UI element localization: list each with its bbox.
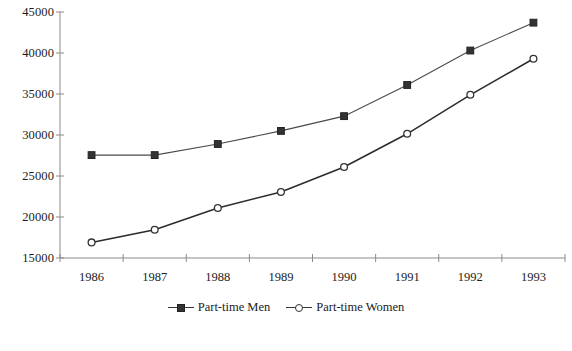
data-point-marker: [467, 91, 474, 98]
legend-item: Part-time Women: [286, 300, 404, 315]
data-point-marker: [467, 47, 474, 54]
y-axis-tick-label: 25000: [6, 170, 54, 183]
y-axis-tick-label: 30000: [6, 129, 54, 142]
x-axis-tick-label: 1987: [125, 271, 185, 284]
y-axis-tick-label: 40000: [6, 47, 54, 60]
data-point-marker: [278, 189, 285, 196]
legend-label: Part-time Men: [198, 300, 271, 315]
y-axis-tick-labels: 45000400003500030000250002000015000: [0, 0, 54, 351]
series-line: [92, 23, 534, 155]
y-axis-tick-label: 35000: [6, 88, 54, 101]
data-point-marker: [530, 19, 537, 26]
data-point-marker: [341, 113, 348, 120]
legend-item: Part-time Men: [168, 300, 271, 315]
data-point-marker: [404, 130, 411, 137]
circle-marker-icon: [286, 302, 312, 314]
data-point-marker: [278, 128, 285, 135]
data-point-marker: [214, 205, 221, 212]
plot-area: [0, 0, 572, 351]
x-axis-tick-label: 1993: [503, 271, 563, 284]
x-axis-tick-label: 1992: [440, 271, 500, 284]
data-point-marker: [151, 152, 158, 159]
data-point-marker: [530, 55, 537, 62]
x-axis-tick-label: 1989: [251, 271, 311, 284]
x-axis-tick-label: 1990: [314, 271, 374, 284]
y-axis-tick-label: 15000: [6, 252, 54, 265]
x-axis-tick-label: 1991: [377, 271, 437, 284]
data-point-marker: [88, 152, 95, 159]
axes: [56, 12, 565, 262]
data-point-marker: [404, 82, 411, 89]
marker-glyph: [177, 304, 185, 312]
data-series: [88, 19, 537, 246]
line-chart: 45000400003500030000250002000015000 1986…: [0, 0, 572, 351]
x-axis-tick-label: 1988: [188, 271, 248, 284]
series-line: [92, 59, 534, 243]
y-axis-tick-label: 20000: [6, 211, 54, 224]
x-axis-tick-label: 1986: [62, 271, 122, 284]
square-marker-icon: [168, 302, 194, 314]
data-point-marker: [88, 239, 95, 246]
data-point-marker: [214, 141, 221, 148]
marker-glyph: [295, 304, 303, 312]
chart-legend: Part-time MenPart-time Women: [0, 300, 572, 315]
legend-label: Part-time Women: [316, 300, 404, 315]
y-axis-tick-label: 45000: [6, 6, 54, 19]
data-point-marker: [341, 164, 348, 171]
data-point-marker: [151, 226, 158, 233]
